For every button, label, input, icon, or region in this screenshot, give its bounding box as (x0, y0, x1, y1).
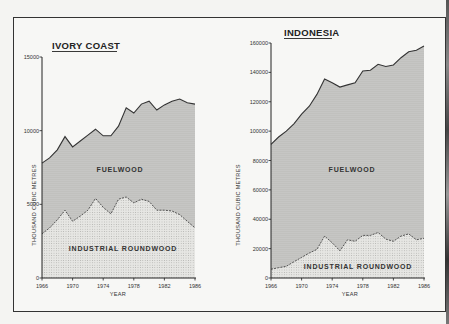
indonesia-chart: INDONESIA 020000400006000080000100000120… (235, 27, 430, 297)
industrial-roundwood-label: INDUSTRIAL ROUNDWOOD (69, 245, 177, 252)
y-tick-label: 20000 (253, 246, 268, 252)
x-tick-label: 1966 (265, 283, 277, 289)
y-tick-label: 0 (265, 275, 268, 281)
y-tick-label: 0 (36, 275, 39, 281)
y-tick-label: 140000 (250, 69, 268, 75)
y-axis-label: THOUSAND CUBIC METRES (31, 164, 37, 246)
x-tick-label: 1982 (387, 283, 399, 289)
x-axis-label: YEAR (110, 291, 126, 297)
chart-title: INDONESIA (284, 27, 339, 38)
x-tick-label: 1978 (128, 283, 140, 289)
x-tick-label: 1966 (36, 283, 48, 289)
fuelwood-label: FUELWOOD (329, 166, 376, 173)
y-tick-label: 100000 (250, 128, 268, 134)
x-tick-label: 1970 (66, 283, 78, 289)
y-tick-label: 60000 (253, 187, 268, 193)
x-tick-label: 1986 (418, 283, 430, 289)
y-tick-label: 160000 (250, 40, 268, 46)
x-axis: 196619701974197819821986 (265, 278, 430, 289)
figure-canvas: IVORY COAST 050001000015000 196619701974… (0, 0, 449, 324)
chart-title: IVORY COAST (52, 40, 120, 51)
x-tick-label: 1982 (158, 283, 170, 289)
y-tick-label: 80000 (253, 158, 268, 164)
y-axis-label: THOUSAND CUBIC METRES (235, 164, 241, 246)
y-tick-label: 120000 (250, 99, 268, 105)
x-tick-label: 1986 (189, 283, 201, 289)
industrial-roundwood-label: INDUSTRIAL ROUNDWOOD (304, 263, 412, 270)
x-tick-label: 1978 (357, 283, 369, 289)
x-tick-label: 1974 (326, 283, 338, 289)
x-tick-label: 1970 (295, 283, 307, 289)
x-axis-label: YEAR (342, 291, 358, 297)
y-tick-label: 40000 (253, 216, 268, 222)
fuelwood-label: FUELWOOD (97, 166, 144, 173)
ivory-coast-chart: IVORY COAST 050001000015000 196619701974… (24, 40, 201, 297)
y-tick-label: 10000 (24, 128, 39, 134)
x-tick-label: 1974 (97, 283, 109, 289)
y-tick-label: 15000 (24, 54, 39, 60)
y-axis: 0200004000060000800001000001200001400001… (250, 40, 271, 281)
x-axis: 196619701974197819821986 (36, 278, 201, 289)
